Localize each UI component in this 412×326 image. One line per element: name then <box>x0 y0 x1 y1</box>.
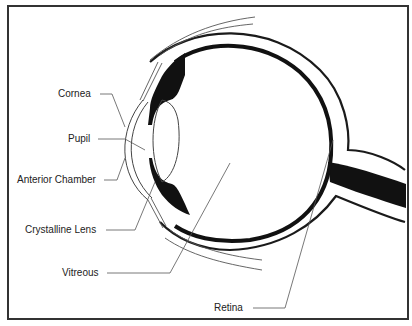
sclera-outer-lower <box>160 196 405 250</box>
lower-eyelid-line-2 <box>165 238 262 270</box>
label-retina: Retina <box>214 302 243 314</box>
leader-vitreous <box>107 163 230 273</box>
label-pupil: Pupil <box>68 133 90 145</box>
crystalline-lens <box>153 100 179 182</box>
optic-nerve <box>328 162 406 208</box>
leader-cornea <box>100 94 125 127</box>
conjunctiva-bottom <box>148 198 166 228</box>
leader-crystalline-lens <box>106 182 155 230</box>
lower-eyelid-line-1 <box>170 230 262 260</box>
leader-pupil <box>98 139 145 150</box>
iris-ciliary-top <box>148 53 185 125</box>
label-vitreous: Vitreous <box>62 267 99 279</box>
label-cornea: Cornea <box>58 88 91 100</box>
leader-anterior-chamber <box>104 158 125 180</box>
label-crystalline-lens: Crystalline Lens <box>25 224 96 236</box>
upper-eyelid-line-1 <box>150 17 255 60</box>
label-anterior-chamber: Anterior Chamber <box>17 174 96 186</box>
choroid-layer <box>175 46 331 241</box>
